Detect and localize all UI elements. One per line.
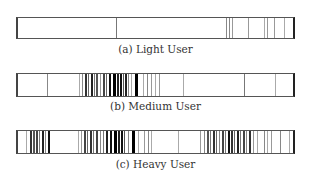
light-user-caption: (a) Light User [0,43,311,55]
event-line [226,18,227,38]
event-line [253,131,254,153]
event-line [159,74,160,96]
event-line [121,131,123,153]
event-line [267,131,268,153]
event-line [128,131,129,153]
event-line [42,131,44,153]
event-line [94,74,95,96]
event-line [151,74,152,96]
event-line [143,74,144,96]
event-line [234,131,235,153]
event-line [106,131,108,153]
event-line [138,131,139,153]
event-line [116,18,117,38]
event-line [91,74,93,96]
event-line [125,74,127,96]
event-line [110,131,112,153]
event-line [114,131,117,153]
event-line [246,131,247,153]
event-line [88,74,89,96]
medium-user-caption: (b) Medium User [0,100,311,112]
event-line [284,18,285,38]
event-line [210,131,211,153]
event-line [219,131,220,153]
event-line [216,131,217,153]
event-line [82,74,83,96]
event-line [228,131,230,153]
heavy-user-caption: (c) Heavy User [0,158,311,170]
event-line [87,131,88,153]
event-line [120,74,122,96]
event-line [48,131,50,153]
event-line [289,131,290,153]
event-line [117,74,119,96]
event-line [79,74,80,96]
event-line [264,131,265,153]
event-line [90,131,92,153]
event-line [103,74,105,96]
event-line [106,74,107,96]
event-line [229,18,230,38]
event-line [293,18,295,38]
event-line [36,131,38,153]
event-line [183,74,184,96]
event-line [244,74,245,96]
event-line [204,131,205,153]
event-line [45,131,46,153]
event-line [81,131,82,153]
event-line [124,131,125,153]
event-line [96,74,98,96]
event-line [144,131,145,153]
event-line [243,131,245,153]
event-line [132,131,135,153]
event-line [249,131,251,153]
event-line [178,131,179,153]
event-line [30,131,32,153]
event-line [103,131,104,153]
event-line [47,74,48,96]
event-line [100,74,101,96]
event-line [85,74,87,96]
event-line [267,18,268,38]
event-line [123,74,124,96]
event-line [96,131,98,153]
event-line [231,131,233,153]
event-line [274,18,275,38]
medium-user-barcode [16,73,295,97]
event-line [151,131,152,153]
event-line [128,74,129,96]
event-line [26,131,27,153]
event-line [118,131,120,153]
event-line [113,74,116,96]
event-line [155,74,156,96]
event-line [207,131,209,153]
event-line [275,74,276,96]
event-line [148,131,149,153]
event-line [232,18,233,38]
event-line [131,74,132,96]
event-line [213,131,215,153]
event-line [84,131,86,153]
event-line [271,131,272,153]
light-user-barcode [16,17,295,39]
event-line [248,18,249,38]
event-line [225,131,226,153]
event-line [78,131,79,153]
event-line [100,131,101,153]
event-line [280,131,281,153]
event-line [264,18,265,38]
event-line [237,131,239,153]
event-line [147,74,148,96]
event-line [33,131,35,153]
event-line [39,131,40,153]
event-line [240,131,241,153]
event-line [135,74,138,96]
event-line [109,74,111,96]
heavy-user-barcode [16,130,295,154]
event-line [257,131,258,153]
event-line [222,131,224,153]
event-line [200,131,201,153]
event-line [93,131,94,153]
